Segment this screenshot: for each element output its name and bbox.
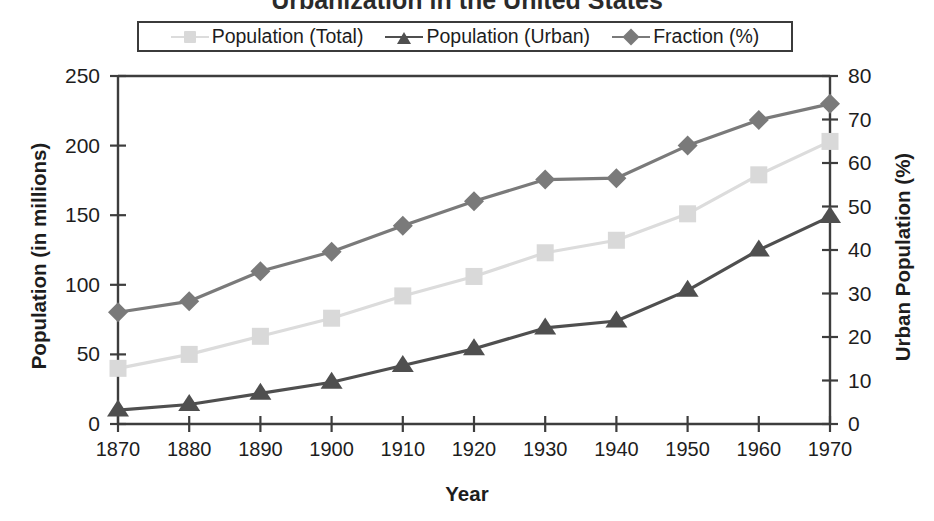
y-tick-label-right: 60 <box>848 152 920 173</box>
y-tick-label-left: 50 <box>28 343 100 364</box>
y-tick-label-left: 200 <box>28 135 100 156</box>
y-tick-label-right: 0 <box>848 413 920 434</box>
y-tick-label-right: 50 <box>848 196 920 217</box>
x-axis-title: Year <box>0 482 934 506</box>
y-tick-label-left: 100 <box>28 274 100 295</box>
y-axis-title-left: Population (in millions) <box>27 76 51 436</box>
series-diamond <box>108 94 840 322</box>
y-tick-label-right: 80 <box>848 65 920 86</box>
chart-container: Urbanization in the United States Popula… <box>0 0 934 521</box>
y-tick-label-right: 70 <box>848 109 920 130</box>
x-tick-label: 1970 <box>785 439 875 459</box>
y-tick-label-right: 30 <box>848 283 920 304</box>
series-triangle <box>107 206 841 416</box>
y-tick-label-left: 150 <box>28 204 100 225</box>
y-tick-label-right: 20 <box>848 326 920 347</box>
y-tick-label-right: 10 <box>848 370 920 391</box>
y-tick-label-left: 250 <box>28 65 100 86</box>
y-tick-label-right: 40 <box>848 239 920 260</box>
y-tick-label-left: 0 <box>28 413 100 434</box>
